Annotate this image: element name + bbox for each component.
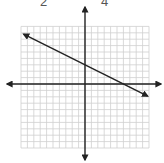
coordinate-plane [0, 0, 164, 163]
